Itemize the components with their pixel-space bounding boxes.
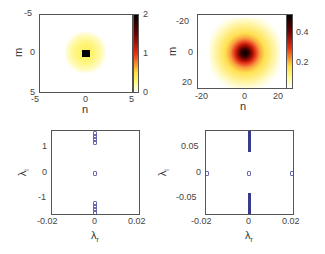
y-tick: -1 (38, 193, 46, 202)
eigenvalue-marker (247, 171, 251, 176)
eigenvalue-marker (93, 140, 97, 145)
x-tick: 20 (273, 92, 283, 101)
y-tick: 1 (42, 142, 47, 151)
x-tick: -0.02 (191, 217, 212, 226)
eigenvalue-dense-segment (248, 131, 251, 152)
x-tick: -0.02 (37, 217, 58, 226)
heatmap-blob (210, 18, 280, 88)
y-axis-label: m (167, 47, 178, 56)
x-tick: 5 (129, 95, 134, 104)
eigenvalue-marker (93, 171, 97, 176)
y-axis-label: λi (157, 169, 170, 176)
y-tick: -0.05 (176, 193, 197, 202)
y-tick: 0.05 (181, 142, 199, 151)
eigenvalue-marker (290, 171, 294, 176)
colorbar-tick: 0 (143, 88, 148, 97)
x-axis-label: n (82, 104, 88, 115)
x-tick: 0.02 (128, 217, 146, 226)
y-tick: -20 (176, 17, 189, 26)
colorbar-1 (133, 14, 139, 93)
y-tick: 0 (30, 48, 35, 57)
x-tick: 0 (92, 217, 97, 226)
eigenvalue-marker (205, 171, 209, 176)
colorbar-tick: 2 (143, 10, 148, 19)
heatmap-axes-2 (197, 14, 287, 89)
x-tick: 0 (246, 217, 251, 226)
spectrum-axes-1 (51, 130, 140, 215)
heatmap-peak (82, 50, 90, 57)
x-axis-label: n (240, 101, 246, 112)
y-tick: 0 (42, 168, 47, 177)
heatmap-axes-1 (39, 14, 133, 93)
colorbar-tick: 0.4 (296, 28, 309, 37)
colorbar-tick: 1 (143, 49, 148, 58)
spectrum-axes-2 (205, 130, 294, 215)
x-tick: 0.02 (282, 217, 300, 226)
x-axis-label: λr (245, 230, 253, 243)
x-tick: -5 (31, 95, 39, 104)
eigenvalue-dense-segment (248, 193, 251, 215)
y-axis-label: λi (17, 169, 30, 176)
y-axis-label: m (13, 48, 24, 57)
eigenvalue-marker (93, 210, 97, 215)
colorbar-tick: 0.2 (296, 58, 309, 67)
y-tick: 0 (188, 48, 193, 57)
y-tick: -5 (24, 9, 32, 18)
x-tick: -20 (195, 92, 208, 101)
y-tick: 0 (196, 168, 201, 177)
y-tick: 20 (182, 78, 192, 87)
colorbar-2 (286, 14, 293, 89)
x-axis-label: λr (91, 230, 99, 243)
